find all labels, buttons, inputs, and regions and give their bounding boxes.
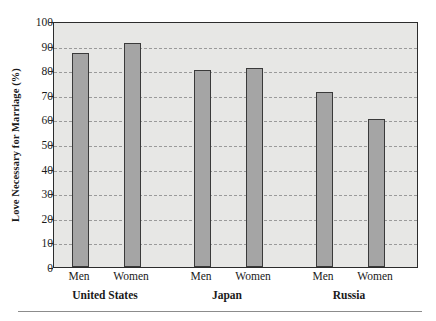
y-tick-label: 10 [11,238,53,250]
y-tick-label: 70 [11,90,53,102]
gridline [54,121,417,122]
bar-united-states-men [72,53,89,267]
y-tick-label: 100 [11,17,53,29]
gridline [54,171,417,172]
group-label-russia: Russia [289,288,409,302]
y-tick-label: 80 [11,66,53,78]
x-tick-label: Women [345,269,405,283]
gridline [54,220,417,221]
gridline [54,97,417,98]
plot-area [53,22,418,268]
group-label-japan: Japan [167,288,287,302]
x-tick-label: Women [223,269,283,283]
bar-japan-women [246,68,263,267]
y-axis-ticks: 0102030405060708090100 [0,22,53,268]
y-tick-label: 50 [11,140,53,152]
x-tick-label: Men [171,269,231,283]
group-label-united-states: United States [45,288,165,302]
y-tick-label: 20 [11,213,53,225]
x-tick-label: Men [293,269,353,283]
gridline [54,244,417,245]
y-tick-label: 90 [11,41,53,53]
bar-united-states-women [124,43,141,267]
y-tick-label: 30 [11,189,53,201]
gridline [54,195,417,196]
x-axis-group-labels: United StatesJapanRussia [53,288,418,306]
y-tick-label: 60 [11,115,53,127]
y-tick-label: 40 [11,164,53,176]
bar-russia-women [368,119,385,267]
bar-japan-men [194,70,211,267]
gridline [54,48,417,49]
bar-chart-figure: Love Necessary for Marriage (%) 01020304… [0,0,436,321]
gridline [54,72,417,73]
bottom-rule-divider [18,311,422,312]
y-tick-label: 0 [11,263,53,275]
x-tick-label: Women [101,269,161,283]
x-tick-label: Men [49,269,109,283]
bar-russia-men [316,92,333,267]
x-axis-category-labels: MenWomenMenWomenMenWomen [53,269,418,287]
gridline [54,146,417,147]
